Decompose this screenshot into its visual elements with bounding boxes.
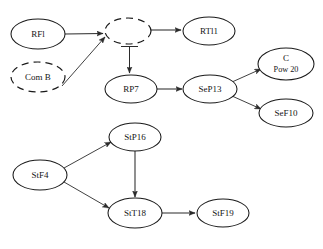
node-rfl[interactable]: RFl [11,19,65,49]
edge-stf4-to-stp16 [64,142,111,168]
node-c-pow-20[interactable]: C Pow 20 [258,48,314,80]
node-hub-unlabeled[interactable] [105,18,151,44]
node-stp16[interactable]: StP16 [109,123,161,151]
node-rp7[interactable]: RP7 [105,75,157,103]
node-rfl-label: RFl [31,29,45,39]
edge-sep13-to-cpow20 [232,69,261,82]
node-stt18[interactable]: StT18 [108,198,162,228]
node-sep13-label: SeP13 [198,84,222,94]
node-stf4-label: StF4 [31,170,49,180]
graph-svg: RFl Com B RTl1 RP7 SeP13 [0,0,323,249]
node-rtl1[interactable]: RTl1 [183,17,235,45]
edge-comb-to-hub [62,37,105,86]
edge-sep13-to-sef10 [232,96,261,109]
node-c-pow-20-label-line2: Pow 20 [274,65,299,74]
edge-hub-to-rp7 [121,47,138,74]
node-stt18-label: StT18 [124,208,147,218]
node-rp7-label: RP7 [123,84,139,94]
node-stf4[interactable]: StF4 [13,160,67,190]
node-c-pow-20-label-line1: C [283,53,289,63]
node-rtl1-label: RTl1 [200,26,218,36]
node-com-b-label: Com B [25,72,51,82]
edge-layer [62,30,261,213]
node-sep13[interactable]: SeP13 [183,75,237,103]
edge-rfl-to-hub [65,34,103,35]
node-stf19-label: StF19 [212,208,234,218]
node-com-b[interactable]: Com B [11,62,65,92]
edge-stf4-to-stt18 [64,182,109,208]
node-stf19[interactable]: StF19 [197,199,249,227]
node-stp16-label: StP16 [124,132,146,142]
diagram-canvas: RFl Com B RTl1 RP7 SeP13 [0,0,323,249]
node-sef10[interactable]: SeF10 [259,99,313,127]
node-sef10-label: SeF10 [274,108,298,118]
node-layer: RFl Com B RTl1 RP7 SeP13 [11,17,314,228]
